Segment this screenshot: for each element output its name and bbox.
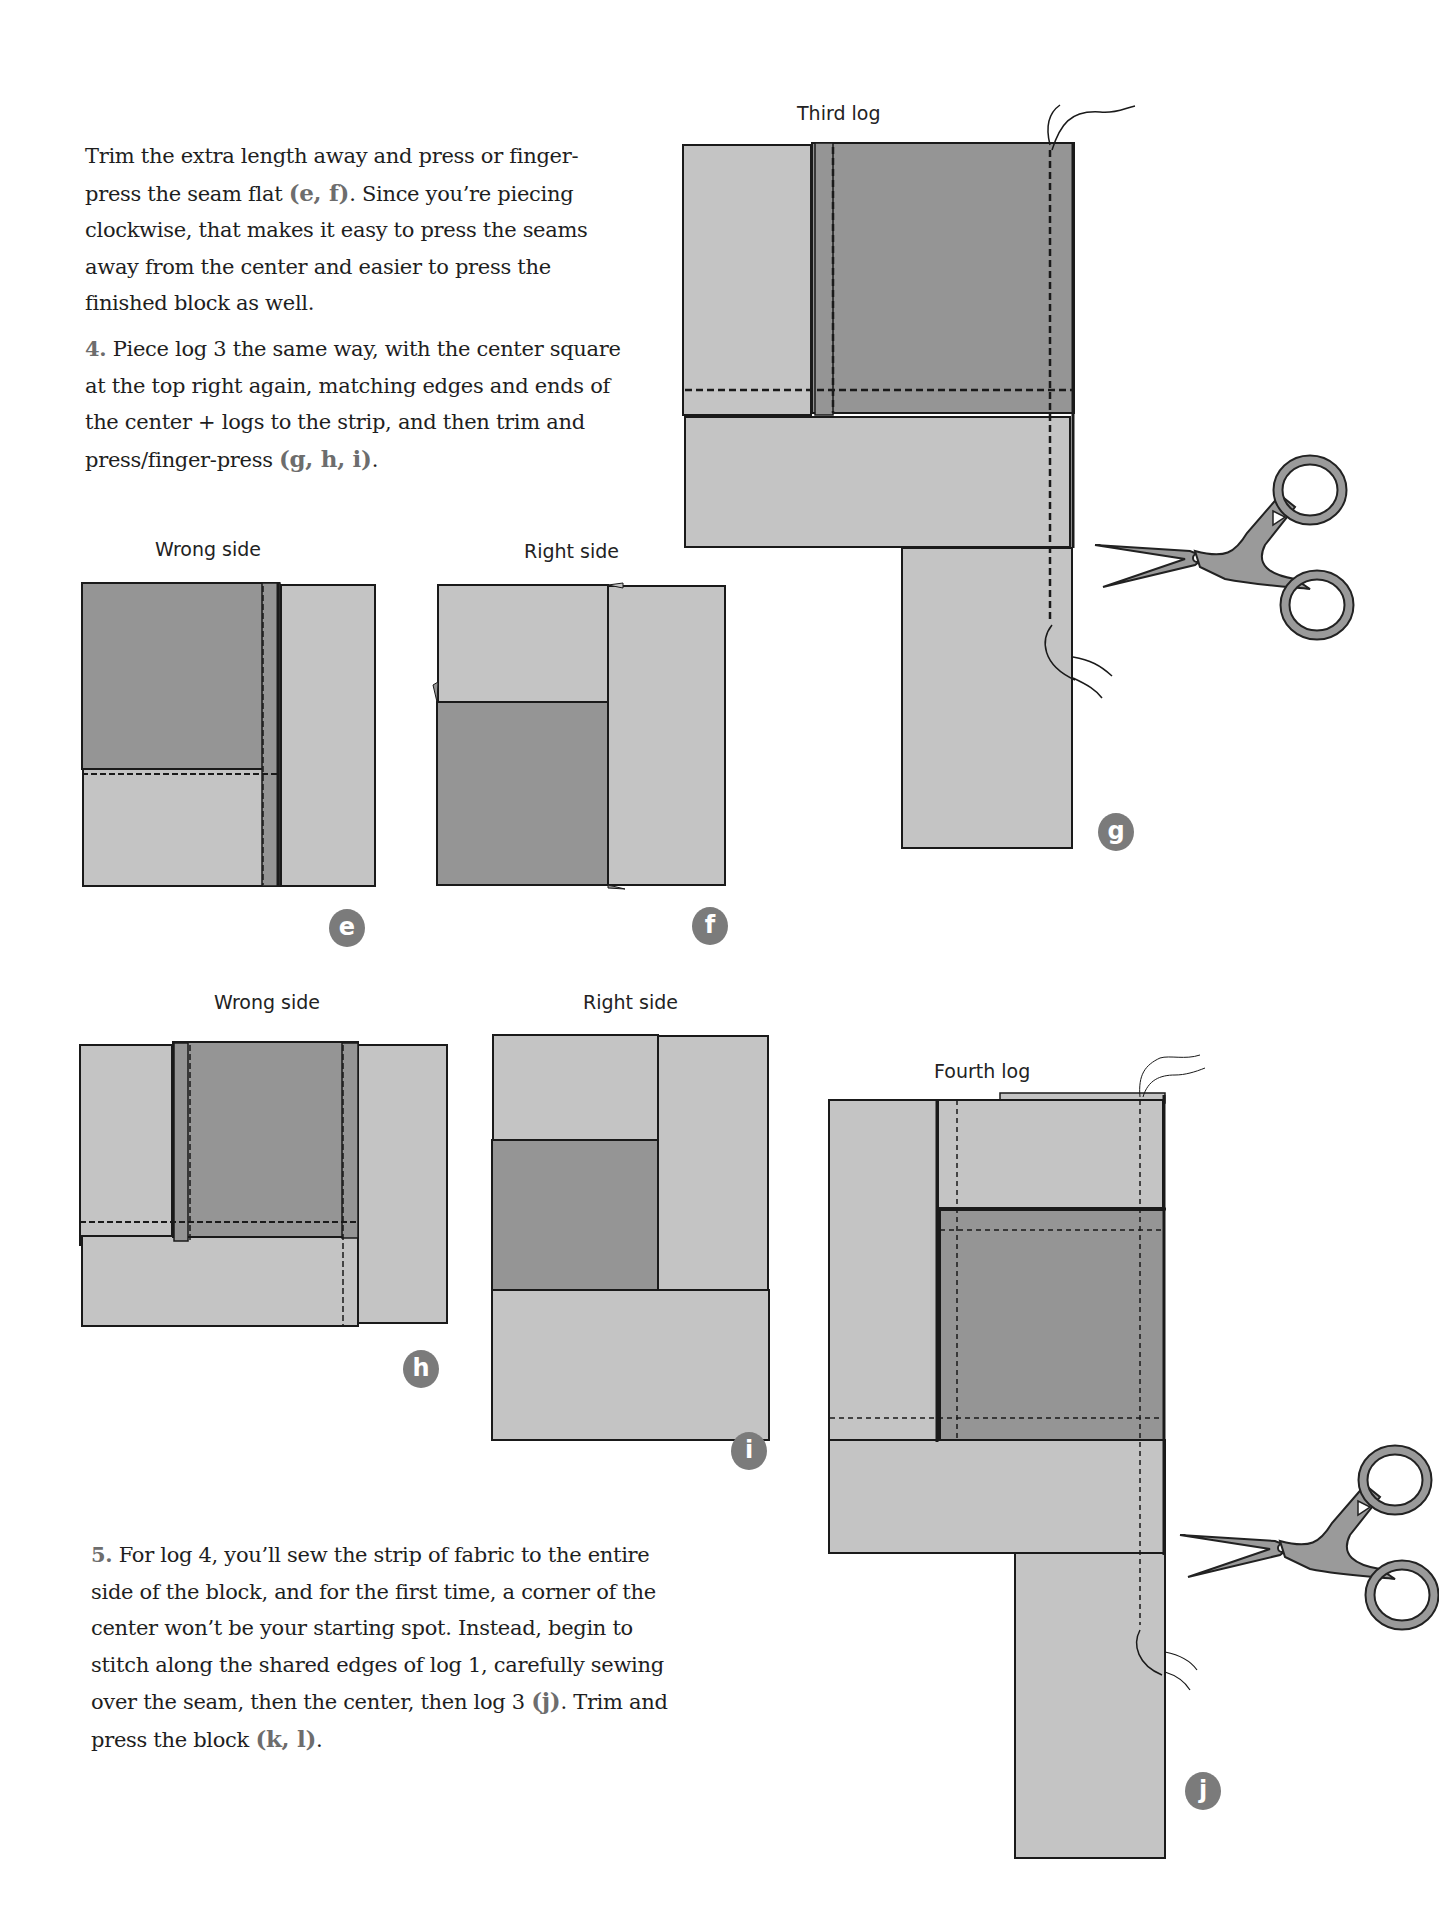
figure-f-label: Right side — [524, 540, 619, 562]
figure-j-badge: j — [1185, 1772, 1221, 1810]
figure-e-label: Wrong side — [155, 538, 261, 560]
figure-h-badge: h — [403, 1350, 439, 1388]
figure-e-badge: e — [329, 909, 365, 947]
figure-g-label: Third log — [797, 102, 880, 124]
figure-f-diagram — [433, 583, 725, 889]
figure-h-diagram — [80, 1042, 447, 1326]
figure-f-badge: f — [692, 907, 728, 945]
figure-g-badge: g — [1098, 813, 1134, 851]
instruction-page: Trim the extra length away and press or … — [0, 0, 1439, 1911]
figure-j-label: Fourth log — [934, 1060, 1030, 1082]
figure-g-diagram — [683, 105, 1135, 848]
figure-i-diagram — [492, 1035, 769, 1440]
figure-i-badge: i — [731, 1432, 767, 1470]
scissors-icon — [1180, 1450, 1434, 1625]
figure-j-diagram — [829, 1055, 1205, 1858]
figure-e-diagram — [82, 583, 375, 887]
figure-h-label: Wrong side — [214, 991, 320, 1013]
quilt-diagrams — [0, 0, 1439, 1911]
figure-i-label: Right side — [583, 991, 678, 1013]
scissors-icon — [1095, 460, 1349, 635]
